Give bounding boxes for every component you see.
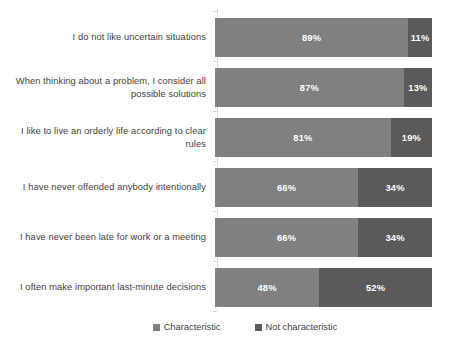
bar-value-label: 87% (300, 83, 319, 93)
category-label: I have never been late for work or a mee… (0, 231, 214, 244)
bar-segment-not-characteristic: 11% (408, 18, 432, 57)
stacked-bar-chart: I do not like uncertain situations89%11%… (0, 0, 450, 355)
bar-segment-characteristic: 48% (215, 268, 319, 307)
bar-row: I like to live an orderly life according… (0, 118, 450, 157)
bar-segment-characteristic: 89% (215, 18, 408, 57)
bar-value-label: 66% (277, 183, 296, 193)
bar-value-label: 19% (402, 133, 421, 143)
bar-value-label: 52% (366, 283, 385, 293)
legend-label: Not characteristic (266, 322, 338, 332)
category-label: I often make important last-minute decis… (0, 281, 214, 294)
stacked-bar: 48%52% (215, 268, 432, 307)
bar-segment-not-characteristic: 13% (404, 68, 432, 107)
bar-value-label: 11% (411, 33, 430, 43)
bar-segment-not-characteristic: 52% (319, 268, 432, 307)
bar-row: I have never offended anybody intentiona… (0, 168, 450, 207)
bar-value-label: 34% (386, 233, 405, 243)
bar-value-label: 34% (386, 183, 405, 193)
bar-row: When thinking about a problem, I conside… (0, 68, 450, 107)
bar-value-label: 89% (302, 33, 321, 43)
bar-segment-characteristic: 66% (215, 168, 358, 207)
bar-segment-characteristic: 81% (215, 118, 391, 157)
bar-segment-not-characteristic: 34% (358, 218, 432, 257)
bar-segment-characteristic: 66% (215, 218, 358, 257)
category-label: I do not like uncertain situations (0, 31, 214, 44)
stacked-bar: 66%34% (215, 218, 432, 257)
bar-value-label: 81% (293, 133, 312, 143)
axis-tick (213, 111, 217, 112)
stacked-bar: 89%11% (215, 18, 432, 57)
bar-row: I have never been late for work or a mee… (0, 218, 450, 257)
axis-tick (213, 211, 217, 212)
bar-row: I do not like uncertain situations89%11% (0, 18, 450, 57)
legend-item[interactable]: Not characteristic (255, 322, 338, 332)
legend-swatch-icon (153, 324, 160, 331)
bar-row: I often make important last-minute decis… (0, 268, 450, 307)
bar-segment-not-characteristic: 34% (358, 168, 432, 207)
bar-segment-characteristic: 87% (215, 68, 404, 107)
stacked-bar: 81%19% (215, 118, 432, 157)
axis-tick (213, 11, 217, 12)
bar-value-label: 66% (277, 233, 296, 243)
axis-tick (213, 261, 217, 262)
category-label: I have never offended anybody intentiona… (0, 181, 214, 194)
category-label: I like to live an orderly life according… (0, 125, 214, 150)
axis-tick (213, 311, 217, 312)
stacked-bar: 87%13% (215, 68, 432, 107)
bar-value-label: 48% (257, 283, 276, 293)
axis-tick (213, 161, 217, 162)
chart-legend: CharacteristicNot characteristic (0, 322, 450, 332)
category-label: When thinking about a problem, I conside… (0, 75, 214, 100)
bar-value-label: 13% (408, 83, 427, 93)
bar-segment-not-characteristic: 19% (391, 118, 432, 157)
legend-label: Characteristic (164, 322, 221, 332)
legend-item[interactable]: Characteristic (153, 322, 221, 332)
legend-swatch-icon (255, 324, 262, 331)
plot-area: I do not like uncertain situations89%11%… (0, 0, 450, 312)
axis-tick (213, 61, 217, 62)
stacked-bar: 66%34% (215, 168, 432, 207)
